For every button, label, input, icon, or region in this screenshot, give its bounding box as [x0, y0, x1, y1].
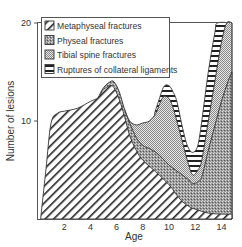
x-tick-label: 4	[88, 222, 93, 232]
x-tick-labels: 2468101214	[62, 222, 227, 232]
x-tick-label: 14	[216, 222, 226, 232]
legend-swatch-horizontal-stripes	[45, 65, 54, 74]
legend: Metaphyseal fracturesPhyseal fracturesTi…	[42, 18, 178, 78]
legend-label: Metaphyseal fractures	[57, 21, 142, 31]
legend-item: Ruptures of collateral ligaments	[45, 65, 177, 75]
legend-item: Physeal fractures	[45, 36, 123, 46]
y-tick-label: 20	[21, 18, 31, 28]
stacked-area-chart: 2468101214 1020 Age Number of lesions Me…	[0, 0, 242, 247]
x-tick-label: 6	[114, 222, 119, 232]
x-tick-label: 2	[62, 222, 67, 232]
legend-label: Physeal fractures	[57, 36, 123, 46]
legend-swatch-fine-stipple	[45, 36, 54, 45]
legend-item: Tibial spine fractures	[45, 50, 136, 60]
y-tick-label: 10	[21, 116, 31, 126]
legend-swatch-diagonal-hatch	[45, 21, 54, 30]
legend-swatch-checker-dot	[45, 50, 54, 59]
legend-item: Metaphyseal fractures	[45, 21, 142, 31]
legend-label: Ruptures of collateral ligaments	[57, 65, 177, 75]
x-tick-label: 12	[190, 222, 200, 232]
legend-label: Tibial spine fractures	[57, 50, 136, 60]
y-axis-label: Number of lesions	[5, 81, 16, 162]
y-tick-labels: 1020	[21, 18, 31, 126]
x-tick-label: 10	[164, 222, 174, 232]
x-axis-label: Age	[125, 231, 143, 242]
